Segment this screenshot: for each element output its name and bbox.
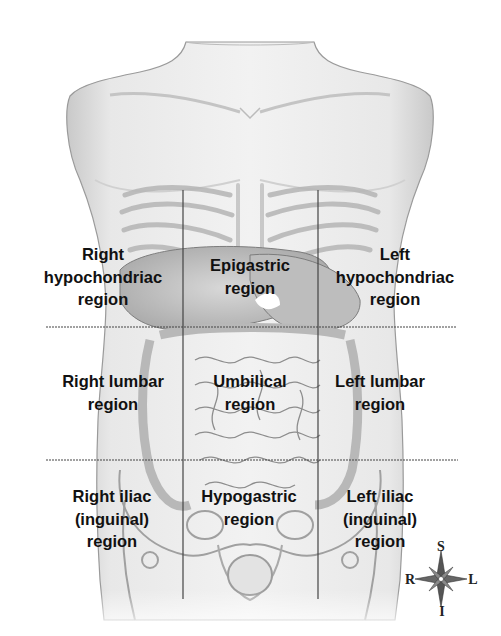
label-line: Umbilical <box>213 370 286 393</box>
label-right-hypochondriac: Right hypochondriac region <box>44 243 162 311</box>
compass-left-label: L <box>468 572 477 588</box>
label-line: region <box>336 288 454 311</box>
label-line: hypochondriac <box>44 266 162 289</box>
label-line: region <box>44 288 162 311</box>
compass-superior-label: S <box>437 539 445 555</box>
label-line: region <box>73 530 152 553</box>
label-line: region <box>62 393 164 416</box>
label-line: (inguinal) <box>343 508 417 531</box>
label-line: region <box>201 508 296 531</box>
compass-inferior-label: I <box>439 604 444 620</box>
abdominal-regions-diagram: Right hypochondriac region Epigastric re… <box>0 0 501 636</box>
compass-right-label: R <box>405 572 415 588</box>
label-line: (inguinal) <box>73 508 152 531</box>
label-line: Hypogastric <box>201 485 296 508</box>
label-line: hypochondriac <box>336 266 454 289</box>
label-left-lumbar: Left lumbar region <box>335 370 425 415</box>
label-line: Epigastric <box>210 254 290 277</box>
label-hypogastric: Hypogastric region <box>201 485 296 530</box>
label-line: Left iliac <box>343 485 417 508</box>
label-line: Right <box>44 243 162 266</box>
label-line: region <box>343 530 417 553</box>
label-line: Left lumbar <box>335 370 425 393</box>
label-left-hypochondriac: Left hypochondriac region <box>336 243 454 311</box>
label-umbilical: Umbilical region <box>213 370 286 415</box>
label-right-lumbar: Right lumbar region <box>62 370 164 415</box>
label-line: Left <box>336 243 454 266</box>
label-line: region <box>335 393 425 416</box>
label-left-iliac: Left iliac (inguinal) region <box>343 485 417 553</box>
label-line: Right lumbar <box>62 370 164 393</box>
label-epigastric: Epigastric region <box>210 254 290 299</box>
label-line: region <box>213 393 286 416</box>
label-line: region <box>210 277 290 300</box>
label-right-iliac: Right iliac (inguinal) region <box>73 485 152 553</box>
label-line: Right iliac <box>73 485 152 508</box>
